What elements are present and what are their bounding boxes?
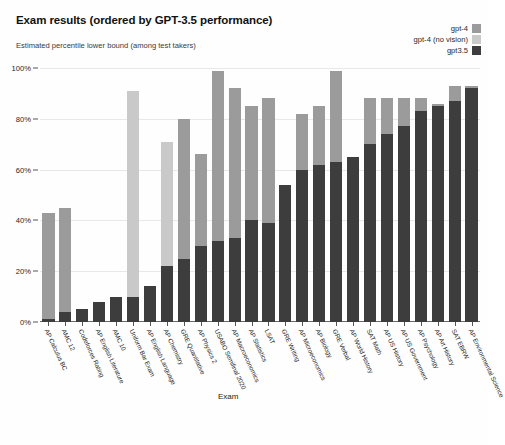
x-axis-tick-mark — [116, 322, 117, 326]
legend-label: gpt-4 (no vision) — [414, 35, 468, 44]
bar-segment — [59, 312, 71, 322]
bar-segment — [144, 286, 156, 322]
x-axis-tick-mark — [285, 322, 286, 326]
legend-label: gpt-4 — [451, 24, 468, 33]
bar-group[interactable] — [127, 68, 139, 322]
bar-segment — [245, 220, 257, 322]
bar-group[interactable] — [432, 68, 444, 322]
bar-segment — [93, 302, 105, 322]
bar-segment — [178, 259, 190, 323]
bar-group[interactable] — [161, 68, 173, 322]
x-axis-tick-mark — [455, 322, 456, 326]
bar-segment — [59, 208, 71, 322]
bar-group[interactable] — [42, 68, 54, 322]
legend-swatch-icon — [472, 35, 481, 44]
bar-segment — [279, 185, 291, 322]
x-axis-tick-mark — [150, 322, 151, 326]
bar-group[interactable] — [262, 68, 274, 322]
bar-group[interactable] — [59, 68, 71, 322]
y-axis-tick-mark — [33, 68, 38, 69]
bar-segment — [195, 246, 207, 322]
bar-group[interactable] — [347, 68, 359, 322]
x-axis-tick-mark — [268, 322, 269, 326]
bar-group[interactable] — [330, 68, 342, 322]
bar-segment — [262, 223, 274, 322]
y-axis-tick-label: 100% — [0, 64, 31, 73]
bar-segment — [127, 297, 139, 322]
bar-group[interactable] — [296, 68, 308, 322]
x-axis-title: Exam — [218, 392, 238, 401]
y-axis-tick-mark — [33, 118, 38, 119]
y-axis-tick-mark — [33, 322, 38, 323]
y-axis-tick-mark — [33, 220, 38, 221]
bar-group[interactable] — [245, 68, 257, 322]
x-axis-tick-mark — [438, 322, 439, 326]
chart-subtitle: Estimated percentile lower bound (among … — [16, 41, 196, 50]
bar-segment — [212, 241, 224, 322]
bar-segment — [127, 91, 139, 322]
x-axis-tick-mark — [65, 322, 66, 326]
bar-segment — [415, 111, 427, 322]
bar-group[interactable] — [93, 68, 105, 322]
page-title: Exam results (ordered by GPT-3.5 perform… — [16, 14, 272, 26]
plot-area: 0%20%40%60%80%100%AP Calculus BCAMC 12Co… — [40, 68, 480, 322]
bar-group[interactable] — [76, 68, 88, 322]
x-axis-tick-label: AP Environmental Science — [467, 328, 505, 398]
bar-segment — [229, 238, 241, 322]
bar-group[interactable] — [144, 68, 156, 322]
bar-group[interactable] — [449, 68, 461, 322]
x-axis-tick-mark — [133, 322, 134, 326]
x-axis-tick-mark — [302, 322, 303, 326]
bar-group[interactable] — [110, 68, 122, 322]
x-axis-tick-label: SAT EBRW — [450, 328, 470, 360]
bar-group[interactable] — [364, 68, 376, 322]
x-axis-tick-mark — [235, 322, 236, 326]
bar-segment — [398, 126, 410, 322]
bar-group[interactable] — [229, 68, 241, 322]
x-axis-tick-mark — [319, 322, 320, 326]
x-axis-tick-mark — [252, 322, 253, 326]
x-axis-tick-label: USABO Semifinal 2020 — [213, 328, 247, 390]
x-axis-tick-mark — [218, 322, 219, 326]
bar-segment — [381, 134, 393, 322]
bar-group[interactable] — [313, 68, 325, 322]
x-axis-tick-label: LSAT — [264, 328, 277, 345]
bar-segment — [313, 165, 325, 322]
bar-group[interactable] — [415, 68, 427, 322]
x-axis-tick-label: SAT Math — [366, 328, 384, 356]
legend-swatch-icon — [472, 24, 481, 33]
y-axis-tick-label: 60% — [0, 165, 31, 174]
y-axis-tick-label: 40% — [0, 216, 31, 225]
bar-segment — [110, 297, 122, 322]
x-axis-tick-mark — [404, 322, 405, 326]
bar-segment — [347, 157, 359, 322]
x-axis-tick-mark — [48, 322, 49, 326]
y-axis-tick-label: 80% — [0, 114, 31, 123]
bar-group[interactable] — [279, 68, 291, 322]
bar-group[interactable] — [195, 68, 207, 322]
legend-item: gpt-4 (no vision) — [414, 35, 481, 44]
bar-group[interactable] — [465, 68, 477, 322]
bar-segment — [364, 144, 376, 322]
y-axis-tick-mark — [33, 271, 38, 272]
x-axis-tick-label: AMC 12 — [61, 328, 77, 352]
x-axis-tick-mark — [336, 322, 337, 326]
x-axis-tick-mark — [387, 322, 388, 326]
bar-group[interactable] — [398, 68, 410, 322]
bar-segment — [296, 170, 308, 322]
x-axis-tick-mark — [472, 322, 473, 326]
bar-group[interactable] — [178, 68, 190, 322]
legend-swatch-icon — [472, 46, 481, 55]
bar-segment — [76, 309, 88, 322]
x-axis-tick-mark — [184, 322, 185, 326]
x-axis-tick-mark — [99, 322, 100, 326]
bar-segment — [42, 213, 54, 322]
legend-label: gpt3.5 — [447, 46, 468, 55]
bar-group[interactable] — [212, 68, 224, 322]
bar-group[interactable] — [381, 68, 393, 322]
bar-segment — [42, 319, 54, 322]
y-axis-tick-mark — [33, 169, 38, 170]
y-axis-tick-label: 0% — [0, 318, 31, 327]
x-axis-tick-mark — [82, 322, 83, 326]
x-axis-tick-label: AP Biology — [315, 328, 334, 359]
